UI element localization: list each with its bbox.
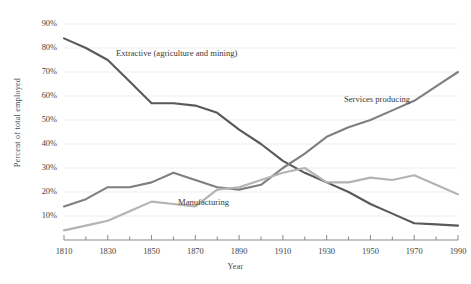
x-tick-label: 1890 — [219, 247, 259, 256]
y-tick-label: 80% — [27, 43, 57, 52]
series-label-services: Services producing — [344, 94, 410, 104]
series-label-manufacturing: Manufacturing — [178, 197, 229, 207]
y-tick-label: 20% — [27, 187, 57, 196]
y-tick-label: 50% — [27, 115, 57, 124]
plot-area — [0, 0, 471, 284]
series-line-manufacturing — [64, 168, 458, 230]
y-tick-label: 30% — [27, 163, 57, 172]
y-axis-title: Percent of total employed — [13, 58, 22, 188]
y-tick-label: 10% — [27, 211, 57, 220]
x-tick-label: 1850 — [132, 247, 172, 256]
series-label-extractive: Extractive (agriculture and mining) — [116, 48, 237, 58]
x-tick-label: 1870 — [175, 247, 215, 256]
y-tick-label: 90% — [27, 19, 57, 28]
x-axis-title: Year — [0, 262, 471, 271]
x-tick-label: 1810 — [44, 247, 84, 256]
y-tick-label: 40% — [27, 139, 57, 148]
line-chart: Percent of total employed Year 10%20%30%… — [0, 0, 471, 284]
series-line-extractive — [64, 38, 458, 225]
y-tick-label: 70% — [27, 67, 57, 76]
x-tick-label: 1910 — [263, 247, 303, 256]
x-tick-label: 1930 — [307, 247, 347, 256]
x-tick-label: 1830 — [88, 247, 128, 256]
y-tick-label: 60% — [27, 91, 57, 100]
x-tick-label: 1990 — [438, 247, 471, 256]
x-tick-label: 1970 — [394, 247, 434, 256]
x-tick-label: 1950 — [350, 247, 390, 256]
series-line-services — [64, 72, 458, 206]
